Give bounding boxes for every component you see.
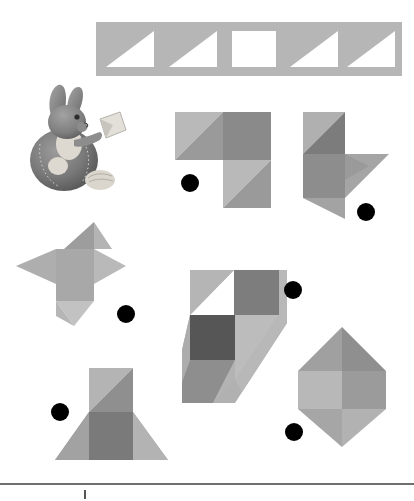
tangram-figure-arrow-right xyxy=(175,112,272,209)
worksheet-page xyxy=(0,0,414,501)
figure-5-bullet-dot xyxy=(285,423,303,441)
page-rule-tick xyxy=(84,490,86,499)
figure-6-bullet-dot xyxy=(51,403,69,421)
figure-1-bullet-dot xyxy=(181,174,199,192)
figure-3-bullet-dot xyxy=(117,305,135,323)
bunny-holding-tangram-illustration xyxy=(22,82,132,197)
tangram-figure-hexagon xyxy=(286,327,398,447)
bunny-foot xyxy=(85,170,115,190)
figure-4-bullet-dot xyxy=(284,281,302,299)
tangram-figure-flag xyxy=(303,112,389,219)
pattern-strip xyxy=(96,22,402,76)
bunny-paw-left xyxy=(48,157,68,175)
banner-cell-3-square xyxy=(232,31,276,67)
tangram-figure-diagonal-steps xyxy=(182,270,287,403)
page-rule-divider xyxy=(0,483,414,485)
figure-2-bullet-dot xyxy=(357,203,375,221)
tangram-figure-star xyxy=(16,222,126,326)
tangram-figure-tree xyxy=(55,368,168,460)
held-tangram-piece xyxy=(100,112,126,138)
